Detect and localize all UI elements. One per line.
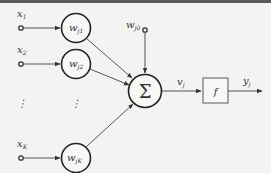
weight-node-jK: wjK [62, 144, 91, 173]
input-node-icon [143, 28, 147, 32]
svg-text:x2: x2 [17, 44, 27, 56]
arrow-icon [90, 69, 129, 85]
output-label: yj [242, 75, 251, 88]
input-node-icon [19, 62, 23, 66]
activation-function-box: f [203, 78, 228, 103]
input-x2: x2 [17, 44, 60, 66]
bias-input: wj0 [126, 19, 147, 73]
weight-node-j2: wj2 [62, 50, 91, 79]
input-node-icon [19, 26, 23, 30]
ellipsis-weights: ⋮ [71, 98, 81, 109]
svg-text:xK: xK [17, 138, 28, 150]
input-xK: xK [17, 138, 60, 160]
summation-node: Σ [129, 75, 162, 108]
input-node-icon [19, 156, 23, 160]
neuron-diagram: x1 x2 ⋮ ⋮ xK wj1 wj2 wjK wj0 Σ [0, 0, 271, 173]
ellipsis-inputs: ⋮ [17, 98, 27, 109]
net-output-label: vj [177, 76, 185, 89]
input-x1-label: x1 [17, 8, 26, 20]
arrow-icon [86, 104, 133, 147]
arrow-icon [86, 38, 132, 78]
svg-text:wj0: wj0 [126, 19, 140, 32]
sigma-icon: Σ [139, 81, 152, 102]
input-x1: x1 [17, 8, 60, 30]
